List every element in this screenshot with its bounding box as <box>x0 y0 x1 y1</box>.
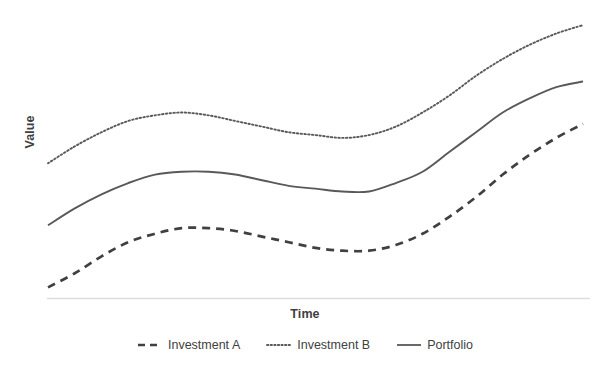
solid-line-icon <box>396 339 422 351</box>
legend-item-investment-a[interactable]: Investment A <box>137 337 240 353</box>
chart-legend: Investment A Investment B Portfolio <box>0 337 610 353</box>
series-line-investment-b <box>48 25 583 163</box>
series-line-investment-a <box>48 124 583 288</box>
series-line-portfolio <box>48 82 583 226</box>
legend-label-investment-b: Investment B <box>297 337 370 353</box>
legend-item-investment-b[interactable]: Investment B <box>266 337 370 353</box>
series-layer <box>48 25 583 287</box>
x-axis-title: Time <box>0 307 610 321</box>
dotted-line-icon <box>266 339 292 351</box>
line-chart: Value Time Investment A Investment B Por… <box>0 0 610 374</box>
legend-item-portfolio[interactable]: Portfolio <box>396 337 473 353</box>
dashed-line-icon <box>137 339 163 351</box>
legend-label-investment-a: Investment A <box>168 337 240 353</box>
legend-label-portfolio: Portfolio <box>427 337 473 353</box>
